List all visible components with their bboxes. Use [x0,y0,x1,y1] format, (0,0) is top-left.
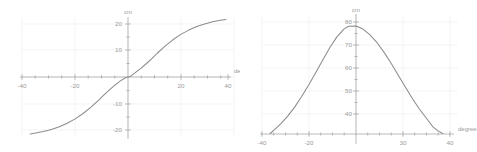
right-plot-x-tick-label: -20 [305,139,315,146]
right-plot-y-tick-label: 60 [345,64,352,71]
right-plot-x-tick-label: 40 [447,139,454,146]
figure-panel: cm degree -40 -20 20 40 20 10 -10 -20 [0,0,477,152]
left-plot-canvas: cm degree -40 -20 20 40 20 10 -10 -20 [0,0,240,152]
right-plot-canvas: cm degree -40 -20 30 40 80 70 60 50 40 [240,0,477,152]
right-plot-figure: cm degree -40 -20 30 40 80 70 60 50 40 [240,0,477,152]
right-plot-ylabel: cm [352,7,360,13]
left-plot-figure: cm degree -40 -20 20 40 20 10 -10 -20 [0,0,240,152]
left-plot-ylabel: cm [124,9,132,15]
left-plot-x-tick-label: 20 [178,82,185,89]
left-plot-x-tick-label: 40 [225,82,232,89]
left-plot-y-tick-label: -20 [113,126,123,133]
left-plot-x-tick-label: -40 [18,82,28,89]
left-plot-y-tick-label: 20 [115,20,122,27]
left-plot-x-tick-label: -20 [71,82,81,89]
right-plot-y-tick-label: 40 [345,110,352,117]
right-plot-gridlines [262,15,458,136]
right-plot-y-tick-label: 50 [345,87,352,94]
right-plot-y-tick-label: 70 [345,41,352,48]
right-plot-x-tick-label: 30 [400,139,407,146]
right-plot-y-tick-label: 80 [345,18,352,25]
right-plot-xlabel: degree [458,126,477,132]
left-plot-y-tick-label: -10 [113,100,123,107]
left-plot-y-tick-label: 10 [115,46,122,53]
right-plot-x-tick-label: -40 [258,139,268,146]
